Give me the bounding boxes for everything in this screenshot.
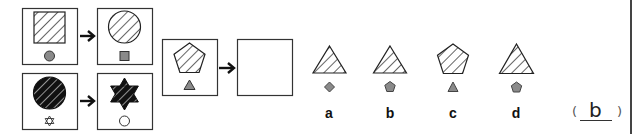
option-a[interactable]	[313, 46, 346, 92]
hatched-triangle-icon	[374, 46, 407, 73]
arrow-right-icon	[80, 31, 94, 41]
example-1-target-box	[98, 9, 153, 65]
hatched-triangle-icon	[500, 44, 534, 74]
hatched-square-icon	[34, 12, 65, 43]
gray-circle-icon	[45, 51, 55, 61]
gray-pentagon-icon	[511, 82, 521, 92]
option-a-label[interactable]: a	[319, 105, 339, 121]
answer-open-paren: (	[572, 104, 577, 119]
hatched-pentagon-icon	[438, 44, 469, 74]
option-d[interactable]	[500, 44, 534, 92]
option-d-label[interactable]: d	[506, 105, 526, 121]
answer-field[interactable]: ( b )	[568, 98, 628, 124]
hatched-triangle-icon	[313, 46, 346, 73]
outline-circle-icon	[120, 116, 130, 126]
gray-pentagon-icon	[385, 82, 395, 92]
gray-diamond-icon	[325, 82, 335, 92]
arrow-right-icon	[219, 63, 234, 73]
gray-triangle-icon	[448, 82, 458, 92]
answer-value: b	[589, 98, 602, 122]
option-c[interactable]	[438, 44, 469, 92]
arrow-right-icon	[80, 96, 94, 106]
example-2-source-box	[23, 74, 78, 130]
option-c-label[interactable]: c	[443, 105, 463, 121]
answer-underline	[580, 120, 612, 121]
question-source-box	[163, 40, 218, 96]
hatched-circle-icon	[109, 11, 141, 43]
example-2-target-box	[98, 74, 153, 130]
option-b-label[interactable]: b	[380, 105, 400, 121]
gray-square-icon	[120, 52, 129, 61]
question-blank-box	[238, 40, 293, 96]
example-1-source-box	[23, 9, 78, 65]
black-hatched-circle-icon	[34, 77, 66, 109]
answer-close-paren: )	[617, 104, 622, 119]
option-b[interactable]	[374, 46, 407, 92]
right-border-rule	[630, 0, 632, 134]
